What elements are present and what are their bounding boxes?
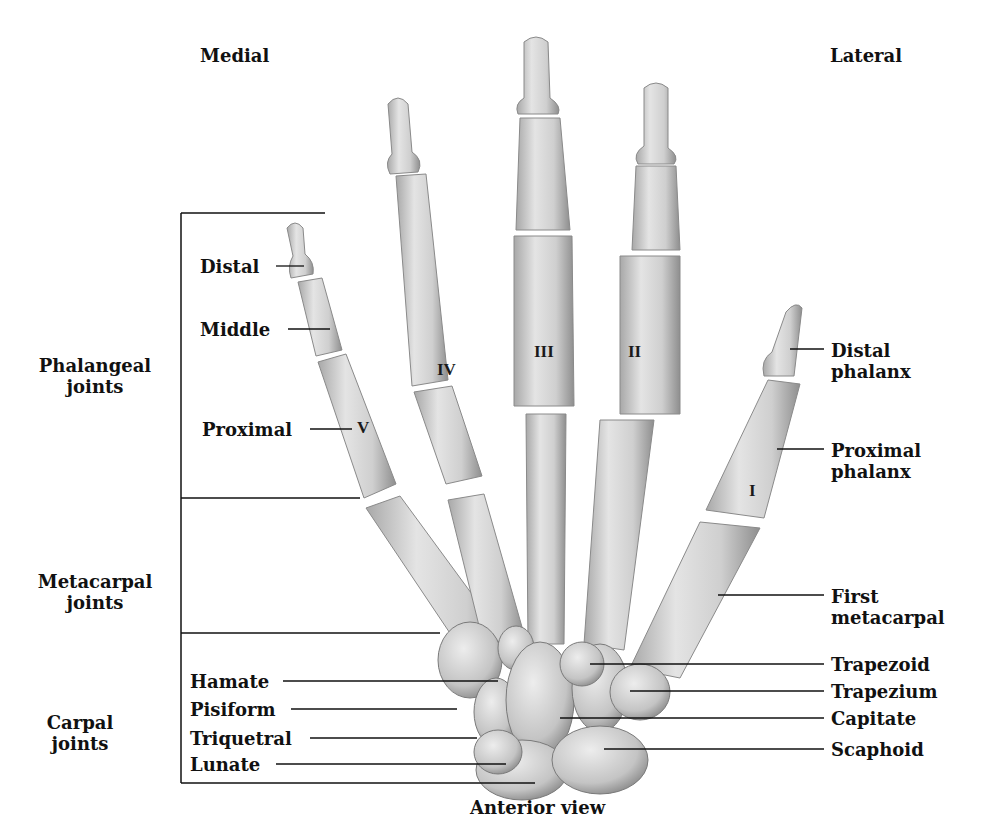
label-line: joints — [30, 592, 160, 613]
label-line: First — [831, 586, 945, 607]
label-line: Phalangeal — [30, 355, 160, 376]
label-line: metacarpal — [831, 607, 945, 628]
digit-numeral-v: V — [357, 418, 369, 438]
label-line: phalanx — [831, 461, 921, 482]
label-line: Metacarpal — [30, 571, 160, 592]
scaphoid-label: Scaphoid — [831, 739, 924, 760]
distal-label: Distal — [200, 256, 259, 277]
thumb-proximal-phalanx-label: Proximal phalanx — [831, 440, 921, 482]
carpal-bones — [438, 622, 670, 800]
digit-numeral-iv: IV — [437, 360, 456, 380]
trapezoid-label: Trapezoid — [831, 654, 930, 675]
label-line: Carpal — [20, 712, 140, 733]
label-line: Distal — [831, 340, 911, 361]
lunate-label: Lunate — [190, 754, 260, 775]
capitate-label: Capitate — [831, 708, 916, 729]
proximal-label: Proximal — [202, 419, 292, 440]
phalangeal-joints-label: Phalangeal joints — [30, 355, 160, 397]
metacarpal-joints-label: Metacarpal joints — [30, 571, 160, 613]
middle-label: Middle — [200, 319, 270, 340]
pisiform-label: Pisiform — [190, 699, 276, 720]
label-line: phalanx — [831, 361, 911, 382]
digit-numeral-iii: III — [534, 342, 554, 362]
hamate-label: Hamate — [190, 671, 269, 692]
carpal-joints-label: Carpal joints — [20, 712, 140, 754]
trapezium-label: Trapezium — [831, 681, 937, 702]
triquetral-label: Triquetral — [190, 728, 292, 749]
label-line: joints — [20, 733, 140, 754]
label-line: Proximal — [831, 440, 921, 461]
first-metacarpal-label: First metacarpal — [831, 586, 945, 628]
view-caption: Anterior view — [470, 797, 605, 818]
digit-numeral-i: I — [749, 481, 756, 501]
thumb-distal-phalanx-label: Distal phalanx — [831, 340, 911, 382]
digit-ii-bones — [584, 83, 680, 650]
medial-label: Medial — [200, 45, 269, 66]
digit-numeral-ii: II — [628, 342, 641, 362]
lateral-label: Lateral — [830, 45, 902, 66]
digit-iii-bones — [514, 37, 574, 644]
label-line: joints — [30, 376, 160, 397]
